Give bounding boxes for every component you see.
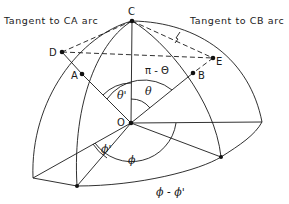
tangent-cb-label: Tangent to CB arc xyxy=(189,15,284,26)
label-c: C xyxy=(128,6,135,17)
label-phi-prime: ϕ' xyxy=(101,143,112,156)
label-d: D xyxy=(49,47,57,58)
label-e: E xyxy=(216,56,222,67)
vertex-bottom-right xyxy=(219,155,223,159)
label-phi: ϕ xyxy=(128,154,136,167)
label-o: O xyxy=(117,117,125,128)
points xyxy=(60,19,223,188)
point-c xyxy=(130,19,135,24)
label-theta: θ xyxy=(145,85,152,98)
sphere-outline xyxy=(33,21,262,186)
tangent-ca-label: Tangent to CA arc xyxy=(3,15,98,26)
spherical-geometry-diagram: Tangent to CA arc Tangent to CB arc C D … xyxy=(0,0,289,204)
point-d xyxy=(60,50,65,55)
label-a: A xyxy=(71,70,78,81)
point-b xyxy=(191,71,196,76)
point-a xyxy=(80,72,85,77)
radial-lines xyxy=(33,21,262,186)
tangent-lines xyxy=(62,21,213,74)
vertex-bottom-left xyxy=(75,184,79,188)
label-b: B xyxy=(198,70,205,81)
point-o xyxy=(129,121,134,126)
label-theta-prime: θ' xyxy=(117,89,127,102)
point-e xyxy=(211,56,216,61)
label-phi-minus-phi-prime: ϕ - ϕ' xyxy=(156,186,185,199)
label-pi-minus-theta: π - Θ xyxy=(145,65,169,76)
